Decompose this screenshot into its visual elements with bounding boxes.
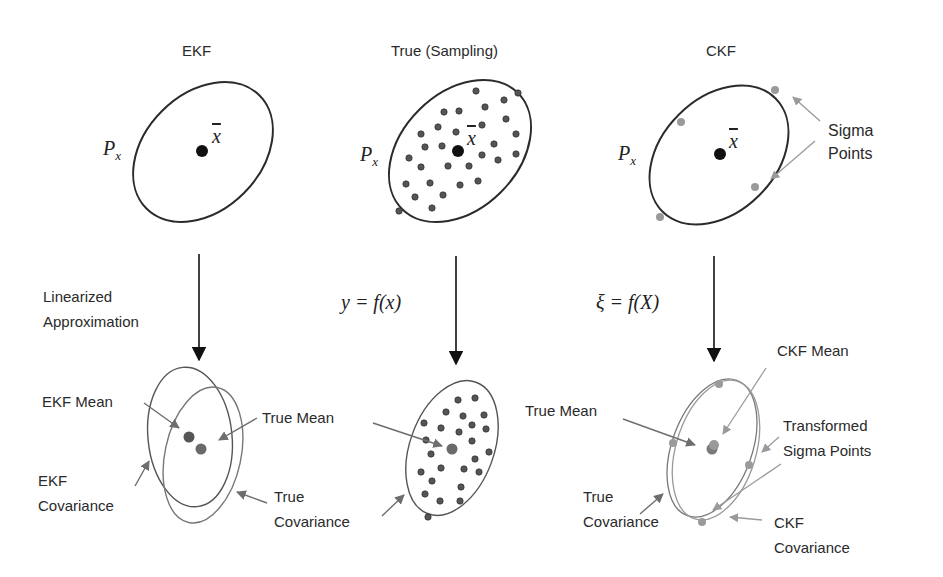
ekf-covariance-label: EKF Covariance [38, 468, 114, 518]
ckf-true-covariance-label: True Covariance [583, 484, 659, 534]
sigma-arrow-upper [793, 97, 820, 121]
ckf-transform-label: ξ = f(X) [596, 291, 659, 314]
transformed-sigma-points-label: Transformed Sigma Points [783, 413, 871, 463]
ekf-covariance-arrow [135, 461, 149, 486]
ekf-prior-mean-point [196, 145, 208, 157]
transformed-sigma-arrow-upper [762, 437, 779, 452]
ekf-mean-label: EKF Mean [42, 392, 113, 411]
sampling-covariance-symbol: Px [360, 143, 378, 170]
sigma-points-label: Sigma Points [828, 119, 873, 165]
sampling-mean-symbol: x [467, 127, 476, 150]
diagram-canvas [0, 0, 943, 577]
ckf-title: CKF [706, 41, 736, 60]
sampling-prior-group [361, 52, 559, 250]
ckf-covariance-arrow [730, 517, 762, 520]
linearized-approximation-label: Linearized Approximation [43, 284, 139, 334]
ekf-mean-symbol: x [212, 125, 221, 148]
true-mean-point [196, 444, 207, 455]
ekf-covariance-symbol: Px [103, 137, 121, 164]
ckf-prior-mean-point [714, 148, 726, 160]
true-mean-arrow-ekf [219, 418, 257, 440]
sampling-true-covariance-arrow [382, 495, 404, 516]
ckf-true-mean-label: True Mean [525, 401, 597, 420]
cov-symbol-main: P [103, 137, 115, 159]
ekf-title: EKF [182, 41, 211, 60]
cov-symbol-sub: x [630, 153, 636, 168]
transformed-sample-points [418, 395, 492, 520]
cov-symbol-main: P [618, 142, 630, 164]
ekf-true-mean-label: True Mean [262, 408, 334, 427]
ekf-prior-group [105, 54, 300, 249]
cov-symbol-sub: x [372, 154, 378, 169]
cov-symbol-sub: x [115, 148, 121, 163]
sampling-prior-mean-point [452, 145, 464, 157]
ckf-covariance-symbol: Px [618, 142, 636, 169]
ckf-mean-symbol: x [729, 130, 738, 153]
cov-symbol-main: P [360, 143, 372, 165]
true-covariance-arrow-ekf [237, 492, 267, 503]
sampling-posterior-group [373, 368, 515, 528]
ckf-mean-label: CKF Mean [777, 341, 849, 360]
ekf-mean-arrow [144, 403, 179, 428]
sigma-arrow-lower [771, 141, 815, 179]
ckf-true-mean-arrow [623, 419, 695, 445]
transformed-sigma-arrow-lower [713, 464, 781, 510]
ekf-posterior-group [135, 363, 267, 530]
sampling-title: True (Sampling) [391, 41, 498, 60]
ekf-true-covariance-label: True Covariance [274, 484, 350, 534]
ckf-mean-point [709, 440, 719, 450]
true-covariance-ellipse [151, 380, 254, 531]
sampling-true-mean-arrow [373, 423, 442, 446]
sampling-transform-label: y = f(x) [341, 291, 401, 314]
ckf-covariance-label: CKF Covariance [774, 510, 850, 560]
ekf-mean-point [184, 432, 195, 443]
sampling-true-mean-point [447, 444, 458, 455]
ckf-prior-group [622, 58, 820, 252]
